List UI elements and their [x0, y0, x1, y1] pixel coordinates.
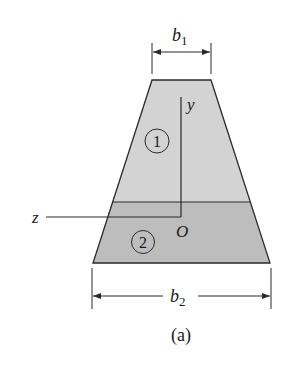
b1-arrow-right-icon — [202, 49, 210, 55]
z-axis-label: z — [31, 208, 39, 227]
b2-arrow-left-icon — [93, 293, 101, 299]
region-2-number: 2 — [139, 234, 147, 251]
b2-label: b2 — [170, 286, 186, 309]
b2-symbol: b — [170, 286, 179, 306]
trapezoid-cross-section-diagram: y z O 1 2 b1 b2 (a) — [0, 0, 293, 368]
b1-arrow-left-icon — [153, 49, 161, 55]
b1-dimension: b1 — [152, 25, 211, 74]
y-axis-label: y — [185, 95, 195, 114]
b1-symbol: b — [172, 25, 181, 45]
b2-subscript: 2 — [179, 294, 186, 309]
region-1-number: 1 — [153, 133, 161, 150]
b1-subscript: 1 — [181, 33, 188, 48]
figure-caption: (a) — [171, 325, 191, 346]
b1-label: b1 — [172, 25, 188, 48]
b2-dimension: b2 — [92, 268, 271, 309]
b2-arrow-right-icon — [262, 293, 270, 299]
origin-label: O — [176, 222, 188, 241]
